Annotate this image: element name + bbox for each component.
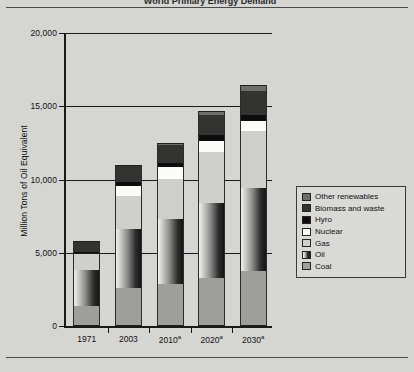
legend-label: Other renewables xyxy=(315,192,378,201)
y-tick-label-20000: 20,000 xyxy=(30,28,57,38)
x-tick-label-2010a: 2010a xyxy=(159,334,181,345)
bar-segment-2020a-biomass-and-waste xyxy=(198,115,225,136)
bar-segment-2020a-gas xyxy=(198,152,225,203)
bar-2010a xyxy=(157,143,184,326)
x-tick-label-superscript: a xyxy=(261,334,264,340)
legend-swatch-icon xyxy=(302,251,311,259)
bar-2030a xyxy=(240,85,267,326)
bar-segment-2020a-oil xyxy=(198,203,225,278)
y-tick-label-5000: 5,000 xyxy=(35,248,57,258)
y-tick-label-0: 0 xyxy=(52,321,57,331)
legend-swatch-icon xyxy=(302,228,311,236)
legend-label: Nuclear xyxy=(315,227,343,236)
plot-area: 05,00010,00015,00020,000 197120032010a20… xyxy=(64,33,272,328)
bar-segment-2003-biomass-and-waste xyxy=(115,166,142,183)
bar-segment-2030a-other-renewables xyxy=(240,85,267,91)
chart-figure: World Primary Energy Demand Million Tons… xyxy=(0,0,414,372)
legend-swatch-icon xyxy=(302,216,311,224)
y-tick-label-10000: 10,000 xyxy=(30,175,57,185)
legend-item-biomass-and-waste[interactable]: Biomass and waste xyxy=(302,203,402,215)
bar-segment-2010a-biomass-and-waste xyxy=(157,145,184,163)
bar-segment-2010a-gas xyxy=(157,179,184,219)
gridline-20000 xyxy=(64,33,272,34)
bar-segment-2030a-nuclear xyxy=(240,121,267,131)
x-tick-divider-3 xyxy=(232,328,233,333)
bar-segment-2003-oil xyxy=(115,229,142,288)
y-tick-20000 xyxy=(59,33,65,34)
bar-segment-2003-other-renewables xyxy=(115,165,142,166)
legend-label: Oil xyxy=(315,250,325,259)
legend-item-oil[interactable]: Oil xyxy=(302,249,402,261)
x-tick-divider-1 xyxy=(149,328,150,333)
bar-segment-2003-gas xyxy=(115,196,142,229)
bar-segment-1971-other-renewables xyxy=(73,241,100,242)
legend-item-other-renewables[interactable]: Other renewables xyxy=(302,191,402,203)
bar-segment-2003-hyro xyxy=(115,182,142,185)
bar-segment-2030a-oil xyxy=(240,188,267,271)
y-tick-15000 xyxy=(59,106,65,107)
bar-1971 xyxy=(73,242,100,326)
legend-label: Hyro xyxy=(315,215,332,224)
x-tick-label-superscript: a xyxy=(219,334,222,340)
page-rule-bottom xyxy=(6,357,408,358)
bar-segment-2010a-oil xyxy=(157,219,184,283)
legend-item-gas[interactable]: Gas xyxy=(302,237,402,249)
bar-segment-2003-nuclear xyxy=(115,186,142,196)
legend-item-hyro[interactable]: Hyro xyxy=(302,214,402,226)
y-axis-title: Million Tons of Oil Equivalent xyxy=(18,33,30,328)
legend-swatch-icon xyxy=(302,239,311,247)
bar-segment-2010a-coal xyxy=(157,284,184,326)
legend-swatch-icon xyxy=(302,193,311,201)
bar-segment-2010a-other-renewables xyxy=(157,143,184,145)
y-tick-0 xyxy=(59,326,65,327)
bar-segment-2030a-hyro xyxy=(240,115,267,121)
bar-segment-2030a-gas xyxy=(240,131,267,188)
x-tick-label-2030a: 2030a xyxy=(242,334,264,345)
bar-segment-2010a-hyro xyxy=(157,163,184,167)
chart-title: World Primary Energy Demand xyxy=(60,0,360,6)
bar-segment-2020a-nuclear xyxy=(198,141,225,152)
x-tick-label-1971: 1971 xyxy=(77,334,96,344)
bar-2003 xyxy=(115,165,142,326)
legend-swatch-icon xyxy=(302,262,311,270)
x-tick-divider-2 xyxy=(191,328,192,333)
bar-2020a xyxy=(198,111,225,326)
legend-label: Gas xyxy=(315,239,330,248)
bar-segment-2010a-nuclear xyxy=(157,167,184,178)
y-tick-5000 xyxy=(59,253,65,254)
x-tick-label-2003: 2003 xyxy=(119,334,138,344)
bar-segment-1971-oil xyxy=(73,270,100,306)
legend-item-nuclear[interactable]: Nuclear xyxy=(302,226,402,238)
x-tick-label-2020a: 2020a xyxy=(200,334,222,345)
legend-item-coal[interactable]: Coal xyxy=(302,261,402,273)
bar-segment-1971-gas xyxy=(73,254,100,270)
bar-segment-2020a-hyro xyxy=(198,135,225,140)
page-rule-top xyxy=(6,7,408,8)
bar-segment-1971-hyro xyxy=(73,252,100,253)
bar-segment-2003-coal xyxy=(115,288,142,326)
chart-legend: Other renewablesBiomass and wasteHyroNuc… xyxy=(296,186,406,278)
bar-segment-1971-coal xyxy=(73,306,100,327)
y-axis-line xyxy=(64,33,66,328)
legend-label: Biomass and waste xyxy=(315,204,384,213)
x-tick-label-superscript: a xyxy=(178,334,181,340)
x-axis-line xyxy=(64,326,272,328)
bar-segment-2020a-other-renewables xyxy=(198,111,225,115)
x-tick-divider-0 xyxy=(108,328,109,333)
bar-segment-2020a-coal xyxy=(198,278,225,326)
y-tick-label-15000: 15,000 xyxy=(30,101,57,111)
y-axis-title-text: Million Tons of Oil Equivalent xyxy=(19,125,29,237)
y-tick-10000 xyxy=(59,180,65,181)
legend-swatch-icon xyxy=(302,204,311,212)
bar-segment-1971-biomass-and-waste xyxy=(73,242,100,252)
bar-segment-2030a-biomass-and-waste xyxy=(240,91,267,114)
legend-label: Coal xyxy=(315,262,331,271)
bar-segment-2030a-coal xyxy=(240,271,267,326)
